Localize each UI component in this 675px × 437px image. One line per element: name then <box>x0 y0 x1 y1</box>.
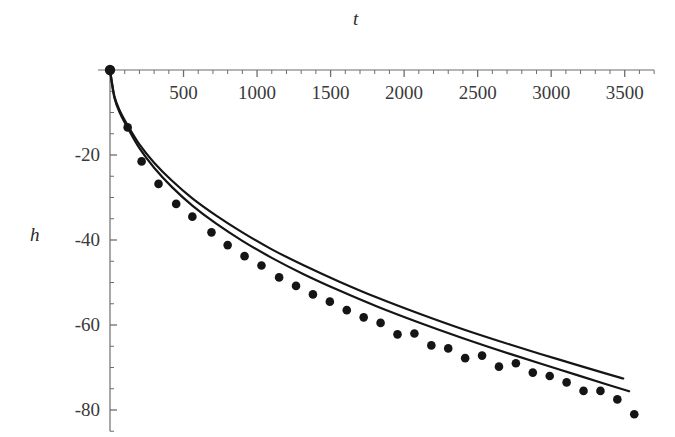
data-point <box>188 212 197 221</box>
model-curve-upper <box>110 70 623 379</box>
data-point <box>545 372 554 381</box>
data-point <box>529 368 538 377</box>
y-tick-label: -80 <box>75 399 100 421</box>
model-curves-group <box>110 70 629 391</box>
data-point <box>630 410 639 419</box>
x-tick-label: 1000 <box>238 82 276 104</box>
data-points-group <box>105 65 639 419</box>
data-point <box>223 241 232 250</box>
y-tick-label: -60 <box>75 314 100 336</box>
data-point <box>461 354 470 363</box>
data-point <box>376 319 385 328</box>
plot-area <box>0 0 675 437</box>
data-point <box>410 329 419 338</box>
data-point <box>154 180 163 189</box>
data-point <box>326 297 335 306</box>
data-point <box>596 387 605 396</box>
chart-container: t h 500100015002000250030003500 -20-40-6… <box>0 0 675 437</box>
data-point <box>444 344 453 353</box>
data-point <box>562 378 571 387</box>
data-point <box>309 290 318 299</box>
data-point <box>207 228 216 237</box>
y-tick-label: -40 <box>75 229 100 251</box>
data-point <box>292 282 301 291</box>
data-point <box>613 395 622 404</box>
x-tick-label: 3000 <box>532 82 570 104</box>
data-point <box>105 65 115 75</box>
data-point <box>359 313 368 322</box>
x-tick-label: 2500 <box>459 82 497 104</box>
y-axis-title: h <box>30 224 40 246</box>
data-point <box>123 123 132 132</box>
data-point <box>257 261 266 270</box>
x-tick-label: 500 <box>169 82 198 104</box>
data-point <box>137 157 146 166</box>
model-curve-lower <box>110 70 629 391</box>
data-point <box>478 351 487 360</box>
data-point <box>240 252 249 261</box>
data-point <box>512 359 521 368</box>
axes-group <box>98 70 654 431</box>
data-point <box>579 387 588 396</box>
x-tick-label: 2000 <box>385 82 423 104</box>
x-tick-label: 1500 <box>312 82 350 104</box>
y-tick-label: -20 <box>75 144 100 166</box>
data-point <box>172 200 181 209</box>
data-point <box>342 306 351 315</box>
data-point <box>495 362 504 371</box>
data-point <box>393 330 402 339</box>
data-point <box>427 341 436 350</box>
x-tick-label: 3500 <box>606 82 644 104</box>
data-point <box>275 273 284 282</box>
x-axis-title: t <box>353 8 358 30</box>
